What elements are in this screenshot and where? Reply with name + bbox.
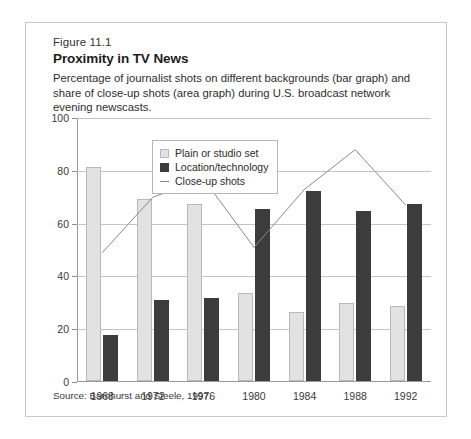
y-tick-mark <box>72 329 77 330</box>
bar-plain-or-studio-set <box>289 312 304 381</box>
legend-item-label: Plain or studio set <box>175 147 258 159</box>
gridline <box>77 329 431 330</box>
y-axis-line <box>77 118 78 382</box>
bar-plain-or-studio-set <box>86 167 101 381</box>
legend-line-icon <box>160 177 169 186</box>
figure-title: Proximity in TV News <box>53 51 188 66</box>
y-tick-label: 60 <box>57 218 69 230</box>
legend-item-label: Close-up shots <box>175 175 245 187</box>
bar-location-technology <box>306 191 321 381</box>
bar-plain-or-studio-set <box>187 204 202 381</box>
gridline <box>77 224 431 225</box>
bar-plain-or-studio-set <box>390 306 405 381</box>
y-tick-label: 40 <box>57 270 69 282</box>
figure-inner: Figure 11.1 Proximity in TV News Percent… <box>26 23 446 416</box>
bar-location-technology <box>407 204 422 381</box>
x-tick-label: 1984 <box>293 390 316 402</box>
bar-location-technology <box>154 300 169 381</box>
y-tick-label: 0 <box>63 376 69 388</box>
chart-legend: Plain or studio setLocation/technologyCl… <box>152 140 278 194</box>
y-tick-label: 80 <box>57 165 69 177</box>
y-tick-label: 20 <box>57 323 69 335</box>
source-note: Source: Barnhurst and Steele, 1997. <box>53 390 212 401</box>
bar-plain-or-studio-set <box>339 303 354 381</box>
x-tick-label: 1988 <box>343 390 366 402</box>
legend-item: Close-up shots <box>160 174 268 188</box>
y-tick-mark <box>72 276 77 277</box>
x-axis-line <box>77 381 431 382</box>
y-tick-mark <box>72 382 77 383</box>
gridline <box>77 118 431 119</box>
bar-location-technology <box>204 298 219 381</box>
bar-location-technology <box>103 335 118 381</box>
y-tick-mark <box>72 224 77 225</box>
bar-location-technology <box>356 211 371 381</box>
y-tick-mark <box>72 171 77 172</box>
figure-frame: Figure 11.1 Proximity in TV News Percent… <box>25 22 447 417</box>
legend-swatch-icon <box>160 163 169 172</box>
gridline <box>77 276 431 277</box>
legend-item: Location/technology <box>160 160 268 174</box>
bar-plain-or-studio-set <box>137 199 152 381</box>
bar-location-technology <box>255 209 270 381</box>
figure-number: Figure 11.1 <box>53 36 111 48</box>
legend-item: Plain or studio set <box>160 146 268 160</box>
figure-subtitle: Percentage of journalist shots on differ… <box>53 71 425 115</box>
y-tick-label: 100 <box>51 112 69 124</box>
legend-item-label: Location/technology <box>175 161 268 173</box>
y-tick-mark <box>72 118 77 119</box>
x-tick-label: 1992 <box>394 390 417 402</box>
x-tick-label: 1980 <box>242 390 265 402</box>
bar-plain-or-studio-set <box>238 293 253 381</box>
legend-swatch-icon <box>160 149 169 158</box>
